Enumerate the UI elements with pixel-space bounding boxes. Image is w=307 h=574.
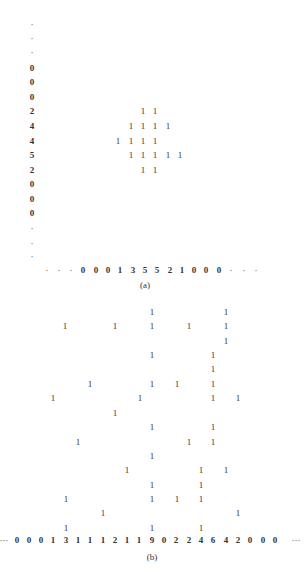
column-projection-value: 1 xyxy=(73,535,83,545)
grid-cell-one: 1 xyxy=(98,508,108,518)
grid-cell-one: 1 xyxy=(147,494,157,504)
grid-cell-one: 1 xyxy=(221,336,231,346)
column-projection-value: 0 xyxy=(258,535,268,545)
column-projection-value: 1 xyxy=(98,535,108,545)
grid-cell-one: 1 xyxy=(147,350,157,360)
grid-cell-one: 1 xyxy=(196,480,206,490)
grid-cell-one: 1 xyxy=(208,379,218,389)
column-projection-value: ··· xyxy=(291,535,301,545)
grid-cell-one: 1 xyxy=(208,437,218,447)
column-projection-value: 6 xyxy=(208,535,218,545)
grid-cell-one: 1 xyxy=(233,508,243,518)
grid-cell-one: 1 xyxy=(208,422,218,432)
grid-cell-one: 1 xyxy=(196,494,206,504)
column-projection-value: 1 xyxy=(122,535,132,545)
column-projection-value: 4 xyxy=(221,535,231,545)
grid-cell-one: 1 xyxy=(196,523,206,533)
grid-cell-one: 1 xyxy=(184,437,194,447)
grid-cell-one: 1 xyxy=(60,321,70,331)
grid-cell-one: 1 xyxy=(172,379,182,389)
panel-b-grid: ···0001311121190224642000···111111111111… xyxy=(0,0,307,574)
grid-cell-one: 1 xyxy=(147,321,157,331)
column-projection-value: 0 xyxy=(159,535,169,545)
grid-cell-one: 1 xyxy=(233,393,243,403)
grid-cell-one: 1 xyxy=(147,307,157,317)
column-projection-value: 1 xyxy=(85,535,95,545)
column-projection-value: 2 xyxy=(110,535,120,545)
grid-cell-one: 1 xyxy=(208,364,218,374)
column-projection-value: 9 xyxy=(147,535,157,545)
grid-cell-one: 1 xyxy=(85,379,95,389)
grid-cell-one: 1 xyxy=(221,465,231,475)
column-projection-value: 0 xyxy=(12,535,22,545)
grid-cell-one: 1 xyxy=(61,494,71,504)
column-projection-value: 0 xyxy=(24,535,34,545)
column-projection-value: 2 xyxy=(233,535,243,545)
grid-cell-one: 1 xyxy=(135,393,145,403)
grid-cell-one: 1 xyxy=(196,465,206,475)
column-projection-value: 1 xyxy=(134,535,144,545)
grid-cell-one: 1 xyxy=(147,480,157,490)
caption-b: (b) xyxy=(147,552,158,562)
grid-cell-one: 1 xyxy=(122,465,132,475)
column-projection-value: 3 xyxy=(61,535,71,545)
column-projection-value: 0 xyxy=(36,535,46,545)
grid-cell-one: 1 xyxy=(147,422,157,432)
grid-cell-one: 1 xyxy=(110,408,120,418)
column-projection-value: 1 xyxy=(48,535,58,545)
column-projection-value: ··· xyxy=(0,535,9,545)
column-projection-value: 2 xyxy=(184,535,194,545)
grid-cell-one: 1 xyxy=(208,393,218,403)
grid-cell-one: 1 xyxy=(147,379,157,389)
grid-cell-one: 1 xyxy=(110,321,120,331)
grid-cell-one: 1 xyxy=(73,437,83,447)
column-projection-value: 2 xyxy=(171,535,181,545)
grid-cell-one: 1 xyxy=(172,494,182,504)
grid-cell-one: 1 xyxy=(184,321,194,331)
grid-cell-one: 1 xyxy=(147,523,157,533)
grid-cell-one: 1 xyxy=(208,350,218,360)
grid-cell-one: 1 xyxy=(221,321,231,331)
column-projection-value: 0 xyxy=(270,535,280,545)
grid-cell-one: 1 xyxy=(221,307,231,317)
grid-cell-one: 1 xyxy=(48,393,58,403)
column-projection-value: 4 xyxy=(196,535,206,545)
grid-cell-one: 1 xyxy=(147,451,157,461)
grid-cell-one: 1 xyxy=(61,523,71,533)
column-projection-value: 0 xyxy=(245,535,255,545)
